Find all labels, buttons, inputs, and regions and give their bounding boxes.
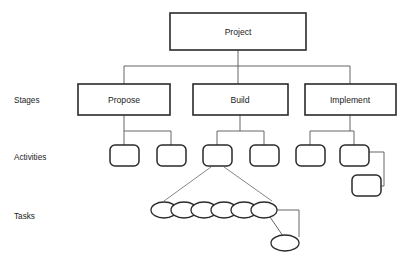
- node-activity-2[interactable]: [157, 145, 186, 166]
- wbs-canvas: Project Propose Build Implement: [0, 0, 408, 266]
- node-activity-7[interactable]: [352, 175, 381, 196]
- node-project-label: Project: [225, 27, 252, 37]
- node-stage-build[interactable]: Build: [193, 84, 288, 115]
- connector-group-activity-to-tasks: [164, 167, 272, 201]
- node-stage-propose-label: Propose: [108, 95, 140, 105]
- node-activity-4[interactable]: [250, 145, 279, 166]
- connector-task-diag-left: [164, 167, 211, 201]
- connector-group-project-to-stages: [124, 50, 350, 84]
- node-activity-3[interactable]: [203, 145, 232, 166]
- node-stage-implement-label: Implement: [330, 95, 371, 105]
- connector-group-propose-to-activities: [124, 115, 171, 145]
- row-label-activities: Activities: [14, 153, 46, 162]
- node-activity-6-shape[interactable]: [340, 145, 369, 166]
- node-activity-3-shape[interactable]: [203, 145, 232, 166]
- connector-task-diag-right: [224, 167, 272, 201]
- row-label-tasks: Tasks: [14, 212, 35, 221]
- wbs-diagram: Project Propose Build Implement: [0, 0, 408, 266]
- node-stage-propose[interactable]: Propose: [78, 84, 170, 115]
- connector-task-diagonal: [270, 217, 283, 236]
- node-task-7[interactable]: [271, 235, 299, 251]
- node-project[interactable]: Project: [170, 13, 306, 50]
- node-activity-4-shape[interactable]: [250, 145, 279, 166]
- node-task-7-shape[interactable]: [271, 235, 299, 251]
- node-activity-5[interactable]: [296, 145, 325, 166]
- node-activity-5-shape[interactable]: [296, 145, 325, 166]
- connector-group-build-to-activities: [217, 115, 264, 145]
- node-activity-6[interactable]: [340, 145, 369, 166]
- node-activity-1[interactable]: [110, 145, 139, 166]
- connector-task-bracket: [277, 210, 299, 237]
- node-task-6-shape[interactable]: [251, 202, 277, 218]
- node-activity-1-shape[interactable]: [110, 145, 139, 166]
- node-activity-2-shape[interactable]: [157, 145, 186, 166]
- node-activity-7-shape[interactable]: [352, 175, 381, 196]
- node-stage-implement[interactable]: Implement: [305, 84, 396, 115]
- node-task-6[interactable]: [251, 202, 277, 218]
- row-label-stages: Stages: [14, 96, 40, 105]
- node-stage-build-label: Build: [230, 95, 249, 105]
- connector-group-implement-to-activities: [310, 115, 354, 145]
